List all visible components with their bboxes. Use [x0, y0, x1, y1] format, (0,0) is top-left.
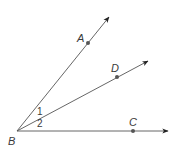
- point-a: [86, 41, 90, 45]
- ray-ba: [17, 17, 109, 131]
- angle-label-2: 2: [37, 118, 43, 129]
- label-c: C: [129, 116, 137, 128]
- point-d: [115, 75, 119, 79]
- angle-diagram: A D C B 1 2: [0, 0, 175, 152]
- angle-label-1: 1: [37, 106, 43, 117]
- label-d: D: [111, 62, 119, 74]
- point-c: [131, 129, 135, 133]
- label-a: A: [76, 32, 84, 44]
- label-b: B: [8, 135, 15, 147]
